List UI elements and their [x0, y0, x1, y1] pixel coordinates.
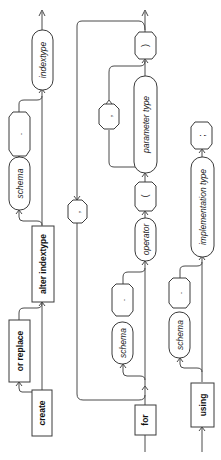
- arrow-icon: [106, 100, 112, 104]
- for-keyword: for: [140, 414, 150, 426]
- schema2-branch-out: [123, 268, 145, 284]
- alter-indextype-keyword: alter indextype: [38, 234, 48, 294]
- comma-inner-punct: ,: [104, 115, 114, 118]
- schema2-branch-in: [123, 364, 145, 380]
- schema3-identifier: schema: [175, 320, 185, 350]
- comma-outer-punct: ,: [72, 211, 82, 214]
- operator-identifier: operator: [141, 223, 151, 256]
- or-replace-keyword: or replace: [15, 330, 25, 371]
- row-1: create or replace alter indextype schema…: [9, 10, 54, 436]
- schema1-branch-out: [19, 96, 42, 112]
- railroad-diagram: create or replace alter indextype schema…: [0, 0, 221, 460]
- dot1-punct: .: [14, 133, 24, 136]
- schema3-branch-in: [180, 358, 202, 372]
- indextype-identifier: indextype: [38, 42, 48, 79]
- row-2: , for schema . operator ( , parameter: [68, 10, 157, 452]
- dot2-punct: .: [117, 299, 127, 302]
- lparen-punct: (: [140, 195, 150, 198]
- semicolon-punct: ;: [197, 134, 207, 137]
- parameter-type-identifier: parameter type: [141, 96, 151, 154]
- implementation-type-identifier: implementation type: [198, 169, 208, 245]
- or-replace-branch-out: [19, 303, 42, 320]
- dot3-punct: .: [174, 292, 184, 295]
- schema1-branch-in: [19, 210, 42, 225]
- rparen-punct: ): [140, 44, 150, 47]
- schema3-branch-out: [180, 262, 202, 278]
- row-3: using schema . implementation type ;: [169, 122, 214, 452]
- schema1-identifier: schema: [15, 168, 25, 198]
- using-keyword: using: [198, 394, 208, 417]
- schema2-identifier: schema: [118, 328, 128, 358]
- create-keyword: create: [37, 400, 47, 425]
